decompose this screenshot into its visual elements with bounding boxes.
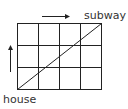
house-label: house xyxy=(3,94,36,105)
right-arrow-icon xyxy=(42,14,70,19)
subway-label: subway xyxy=(84,10,126,21)
up-arrow-icon xyxy=(8,45,13,72)
